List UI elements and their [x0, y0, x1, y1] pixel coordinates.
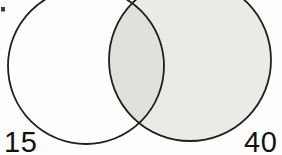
corner-mark: [1, 7, 5, 12]
right-set-label: 40: [244, 126, 277, 155]
venn-diagram-figure: 15 40: [0, 0, 282, 155]
venn-diagram-canvas: 15 40: [0, 0, 282, 155]
left-set-label: 15: [4, 126, 37, 155]
